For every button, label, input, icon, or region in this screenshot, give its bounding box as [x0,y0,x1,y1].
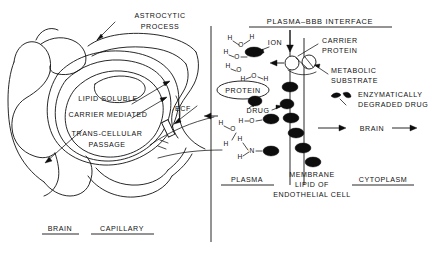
carrier-protein-group: CARRIER PROTEIN METABOLIC SUBSTRATE [270,37,378,85]
brain-direction-arrow: BRAIN [318,125,417,133]
atom-o-1: O [238,41,243,48]
atom-h-6: H [264,75,269,82]
hydrated-drug-cluster: H O H O H H H N [219,114,279,160]
atom-h-8: H [239,117,244,124]
label-trans-cellular-passage-line2: PASSAGE [88,141,125,149]
drug-particle-cytoplasm-1 [305,157,321,167]
label-footer-cytoplasm: CYTOPLASM [359,176,408,184]
label-footer-brain: BRAIN [48,225,72,233]
ion-group: ION [245,39,282,57]
atom-h-10: H [238,135,243,142]
label-enzymatically-degraded-line2: DEGRADED DRUG [358,101,428,109]
water-cluster-upper: H H O H O H O H O H [224,33,269,82]
right-panel-footers: PLASMA MEMBRANE LIPID OF ENDOTHELIAL CEL… [221,171,414,199]
drug-particle-hydrated-1 [263,114,279,124]
label-ecf: ECF [175,105,191,113]
label-drug: DRUG [246,107,269,115]
carrier-protein-circle-left [285,56,299,70]
label-carrier-protein-line2: PROTEIN [322,47,357,55]
drug-particle-hydrated-2 [263,146,279,156]
label-footer-capillary: CAPILLARY [100,225,144,233]
label-trans-cellular-passage-line1: TRANS-CELLULAR [72,130,143,138]
atom-n-1: N [250,147,255,154]
label-lipid-soluble: LIPID SOLUBLE [78,95,138,103]
membrane-entry-arrow [287,30,294,52]
atom-o-6: O [249,117,254,124]
label-footer-plasma: PLASMA [231,176,263,184]
atom-o-4: O [251,72,256,79]
bbb-diagram-figure: ASTROCYTIC PROCESS LIPID SOLUBLE CARRIER… [0,0,432,265]
atom-h-2: H [250,33,255,40]
atom-o-5: O [230,125,235,132]
atom-h-1: H [228,34,233,41]
atom-h-7: H [219,119,224,126]
enzymatically-degraded-drug-group: ENZYMATICALLY DEGRADED DRUG [331,91,428,109]
label-footer-membrane-line3: ENDOTHELIAL CELL [273,191,351,199]
drug-particle-membrane-4 [295,143,311,153]
label-astrocytic-process-line1: ASTROCYTIC [134,12,185,20]
label-protein: PROTEIN [225,87,260,95]
label-metabolic-substrate-line1: METABOLIC [331,67,376,75]
drug-group: DRUG [246,96,294,115]
right-panel-title-group: PLASMA–BBB INTERFACE [249,17,392,27]
atom-o-3: O [236,66,241,73]
atom-h-4: H [226,62,231,69]
drug-particle-membrane-3 [288,128,304,138]
title-plasma-bbb-interface: PLASMA–BBB INTERFACE [267,17,373,26]
label-ion: ION [268,39,282,47]
drug-particle-free [280,99,294,109]
atom-h-9: H [224,140,229,147]
atom-h-11: H [238,153,243,160]
protein-group: PROTEIN [217,81,269,99]
atom-o-2: O [234,53,239,60]
label-carrier-mediated: CARRIER MEDIATED [69,111,148,119]
degraded-drug-fragment-1 [331,93,341,98]
label-enzymatically-degraded-line1: ENZYMATICALLY [358,91,422,99]
label-carrier-protein-line1: CARRIER [322,37,358,45]
transmembrane-drug-cascade [282,82,321,167]
label-astrocytic-process-line2: PROCESS [141,23,180,31]
drug-particle-membrane-1 [282,82,298,92]
atom-h-3: H [224,48,229,55]
label-brain-arrow: BRAIN [360,125,384,133]
label-footer-membrane-line2: LIPID OF [295,181,329,189]
left-panel-arrows [45,22,222,163]
degraded-drug-fragment-2 [343,92,351,98]
label-metabolic-substrate-line2: SUBSTRATE [331,77,378,85]
label-footer-membrane-line1: MEMBRANE [289,171,334,179]
drug-particle-membrane-2 [283,113,299,123]
